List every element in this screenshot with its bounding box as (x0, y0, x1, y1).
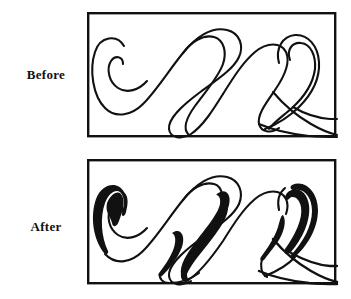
after-artwork (87, 159, 337, 285)
panel-label-before: Before (8, 67, 84, 83)
panel-before: Before (0, 0, 351, 149)
calligraphy-comparison-figure: Before (0, 0, 351, 299)
panel-label-after: After (8, 219, 84, 235)
panel-after: After (0, 149, 351, 298)
before-artwork (87, 12, 337, 138)
